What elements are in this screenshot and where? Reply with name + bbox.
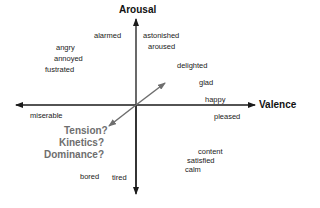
emotion-glad: glad <box>199 79 213 87</box>
arousal-axis-label: Arousal <box>119 5 156 15</box>
emotion-pleased: pleased <box>214 113 240 121</box>
emotion-bored: bored <box>80 173 99 181</box>
emotion-satisfied: satisfied <box>187 157 215 165</box>
valence-axis-label: Valence <box>259 100 296 110</box>
diagonal-question-kinetics: Kinetics? <box>56 138 104 148</box>
diagonal-axis-down <box>109 105 136 126</box>
diagonal-question-tension: Tension? <box>64 126 106 136</box>
emotion-alarmed: alarmed <box>94 32 121 40</box>
emotion-delighted: delighted <box>177 62 207 70</box>
diagonal-axis-up <box>136 83 165 105</box>
diagonal-question-dominance: Dominance? <box>44 150 104 160</box>
emotion-fustrated: fustrated <box>45 66 74 74</box>
emotion-angry: angry <box>56 44 75 52</box>
emotion-content: content <box>198 148 223 156</box>
emotion-astonished: astonished <box>143 32 179 40</box>
emotion-happy: happy <box>205 96 225 104</box>
emotion-calm: calm <box>185 166 201 174</box>
emotion-miserable: miserable <box>30 112 63 120</box>
emotion-tired: tired <box>112 174 127 182</box>
emotion-aroused: aroused <box>148 43 175 51</box>
emotion-annoyed: annoyed <box>54 55 83 63</box>
